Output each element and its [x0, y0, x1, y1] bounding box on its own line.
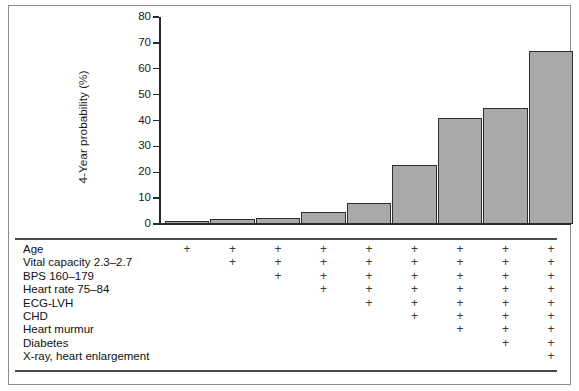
plus-marker: +	[317, 256, 331, 269]
bar	[392, 165, 437, 225]
y-tick-label-wrap: 60	[113, 63, 151, 64]
y-tick-label: 20	[117, 166, 151, 178]
plus-marker: +	[499, 310, 513, 323]
plus-marker: +	[408, 297, 422, 310]
plus-marker: +	[226, 256, 240, 269]
bar	[347, 203, 392, 224]
y-tick-20	[153, 172, 159, 173]
plus-marker: +	[317, 243, 331, 256]
table-row: BPS 160–179+++++++	[9, 270, 572, 283]
plus-marker: +	[408, 283, 422, 296]
risk-factor-label: Heart murmur	[23, 323, 94, 336]
table-top-rule	[15, 238, 557, 240]
plus-marker: +	[499, 243, 513, 256]
y-tick-70	[153, 42, 159, 43]
table-rows: Age+++++++++Vital capacity 2.3–2.7++++++…	[9, 243, 572, 364]
plus-marker: +	[362, 283, 376, 296]
x-axis-line	[159, 223, 571, 225]
bar	[438, 118, 483, 224]
plot-area	[161, 17, 571, 224]
plus-marker: +	[499, 270, 513, 283]
y-tick-label-wrap: 40	[113, 115, 151, 116]
y-tick-60	[153, 68, 159, 69]
table-bottom-rule	[15, 370, 557, 372]
y-tick-label-wrap: 70	[113, 37, 151, 38]
figure: 4-Year probability (%) 01020304050607080…	[0, 0, 579, 391]
plus-marker: +	[408, 243, 422, 256]
risk-factor-label: X-ray, heart enlargement	[23, 350, 149, 363]
plus-marker: +	[362, 270, 376, 283]
plus-marker: +	[271, 270, 285, 283]
risk-factor-table: Age+++++++++Vital capacity 2.3–2.7++++++…	[9, 233, 572, 386]
y-tick-30	[153, 146, 159, 147]
risk-factor-label: CHD	[23, 310, 48, 323]
y-tick-80	[153, 16, 159, 17]
y-tick-label-wrap: 80	[113, 11, 151, 12]
y-tick-label: 0	[117, 218, 151, 230]
plus-marker: +	[271, 256, 285, 269]
plus-marker: +	[544, 297, 558, 310]
plus-marker: +	[271, 243, 285, 256]
table-row: Vital capacity 2.3–2.7++++++++	[9, 256, 572, 269]
plus-marker: +	[453, 297, 467, 310]
plus-marker: +	[544, 323, 558, 336]
y-tick-label: 10	[117, 192, 151, 204]
plus-marker: +	[408, 256, 422, 269]
plus-marker: +	[408, 310, 422, 323]
plus-marker: +	[499, 283, 513, 296]
bar	[529, 51, 574, 224]
plus-marker: +	[544, 283, 558, 296]
risk-factor-label: BPS 160–179	[23, 270, 94, 283]
table-row: X-ray, heart enlargement+	[9, 350, 572, 363]
plus-marker: +	[453, 283, 467, 296]
risk-factor-label: Diabetes	[23, 337, 68, 350]
plus-marker: +	[180, 243, 194, 256]
y-tick-label: 80	[117, 11, 151, 23]
y-tick-label-wrap: 30	[113, 140, 151, 141]
y-tick-50	[153, 94, 159, 95]
y-tick-label: 50	[117, 89, 151, 101]
plus-marker: +	[544, 310, 558, 323]
y-tick-10	[153, 197, 159, 198]
plus-marker: +	[453, 243, 467, 256]
bar	[483, 108, 528, 224]
figure-frame: 4-Year probability (%) 01020304050607080…	[8, 5, 571, 385]
plus-marker: +	[544, 270, 558, 283]
plus-marker: +	[499, 297, 513, 310]
table-row: ECG-LVH+++++	[9, 297, 572, 310]
y-tick-label-wrap: 10	[113, 192, 151, 193]
y-tick-label-wrap: 20	[113, 166, 151, 167]
plus-marker: +	[544, 243, 558, 256]
risk-factor-label: Age	[23, 243, 43, 256]
y-axis-title: 4-Year probability (%)	[76, 27, 90, 227]
plus-marker: +	[544, 256, 558, 269]
y-tick-label: 30	[117, 140, 151, 152]
plus-marker: +	[317, 283, 331, 296]
plus-marker: +	[408, 270, 422, 283]
risk-factor-label: Heart rate 75–84	[23, 283, 109, 296]
table-row: Heart murmur+++	[9, 323, 572, 336]
plus-marker: +	[453, 270, 467, 283]
y-tick-label: 70	[117, 37, 151, 49]
y-tick-40	[153, 120, 159, 121]
y-tick-label: 60	[117, 63, 151, 75]
y-tick-label-wrap: 50	[113, 89, 151, 90]
plus-marker: +	[226, 243, 240, 256]
table-row: CHD++++	[9, 310, 572, 323]
bar-chart: 4-Year probability (%) 01020304050607080	[9, 6, 572, 233]
plus-marker: +	[544, 350, 558, 363]
plus-marker: +	[362, 256, 376, 269]
risk-factor-label: Vital capacity 2.3–2.7	[23, 256, 132, 269]
table-row: Age+++++++++	[9, 243, 572, 256]
plus-marker: +	[499, 323, 513, 336]
plus-marker: +	[544, 337, 558, 350]
plus-marker: +	[453, 310, 467, 323]
plus-marker: +	[499, 256, 513, 269]
y-tick-label-wrap: 0	[113, 218, 151, 219]
plus-marker: +	[499, 337, 513, 350]
plus-marker: +	[362, 243, 376, 256]
y-tick-label: 40	[117, 115, 151, 127]
table-row: Heart rate 75–84++++++	[9, 283, 572, 296]
plus-marker: +	[317, 270, 331, 283]
plus-marker: +	[453, 256, 467, 269]
